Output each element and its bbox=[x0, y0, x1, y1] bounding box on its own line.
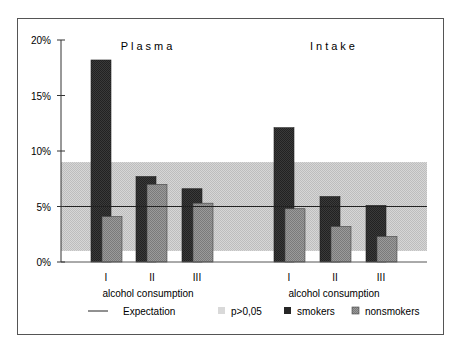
legend-smokers: smokers bbox=[297, 306, 335, 317]
legend-nonsmokers: nonsmokers bbox=[365, 306, 419, 317]
x-axis-title: alcohol consumption bbox=[102, 288, 193, 299]
bar-nonsmokers bbox=[331, 226, 351, 262]
legend-smokers-swatch-icon bbox=[284, 307, 291, 314]
panel-title: Plasma bbox=[121, 40, 176, 52]
legend: Expectation p>0,05 smokers nonsmokers bbox=[88, 306, 419, 317]
bar-nonsmokers bbox=[147, 184, 167, 262]
bar-nonsmokers bbox=[193, 203, 213, 262]
y-tick-label: 10% bbox=[31, 146, 51, 157]
panel-title: Intake bbox=[310, 40, 358, 52]
bar-chart: 0%5%10%15%20% PlasmaIIIIIIalcohol consum… bbox=[0, 0, 462, 352]
y-tick-label: 5% bbox=[37, 202, 52, 213]
bar-nonsmokers bbox=[285, 209, 305, 262]
bar-nonsmokers bbox=[102, 216, 122, 262]
x-axis-title: alcohol consumption bbox=[288, 288, 379, 299]
y-ticks: 0%5%10%15%20% bbox=[31, 35, 65, 268]
y-tick-label: 15% bbox=[31, 91, 51, 102]
category-label: III bbox=[193, 272, 201, 283]
legend-expectation: Expectation bbox=[123, 306, 175, 317]
y-tick-label: 20% bbox=[31, 35, 51, 46]
bar-nonsmokers bbox=[377, 236, 397, 262]
legend-nonsmokers-swatch-icon bbox=[352, 307, 359, 314]
legend-band-swatch-icon bbox=[218, 307, 225, 314]
category-label: III bbox=[377, 272, 385, 283]
category-label: II bbox=[149, 272, 155, 283]
legend-band: p>0,05 bbox=[231, 306, 262, 317]
category-label: II bbox=[332, 272, 338, 283]
category-label: I bbox=[288, 272, 291, 283]
category-label: I bbox=[105, 272, 108, 283]
y-tick-label: 0% bbox=[37, 257, 52, 268]
